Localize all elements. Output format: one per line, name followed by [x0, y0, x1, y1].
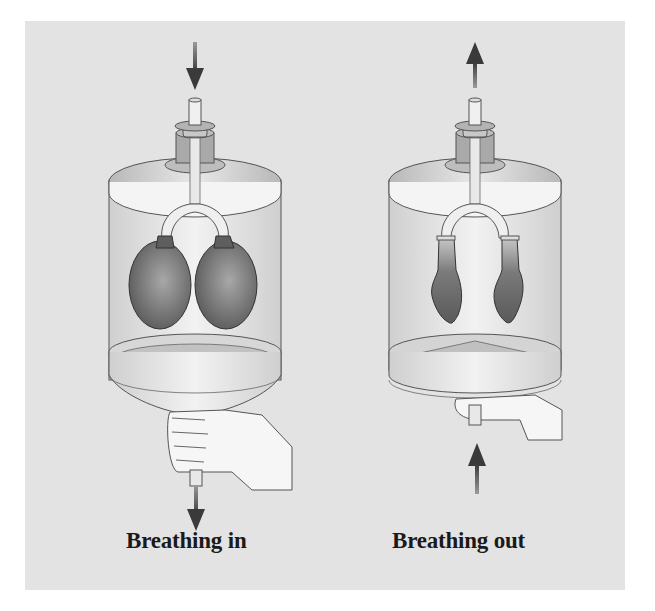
left-lung-balloon	[129, 241, 191, 329]
breathing-in-model	[109, 42, 292, 531]
hand-pulling-icon	[168, 410, 292, 490]
pull-down-arrow-icon	[187, 485, 205, 531]
breathing-in-label: Breathing in	[126, 528, 247, 554]
right-lung-balloon	[195, 241, 257, 329]
air-out-arrow-icon	[466, 42, 484, 88]
air-in-arrow-icon	[186, 42, 204, 90]
hand-pushing-icon	[455, 395, 562, 440]
breathing-out-model	[389, 42, 562, 494]
push-up-arrow-icon	[468, 443, 486, 494]
breathing-out-label: Breathing out	[392, 528, 525, 554]
bell-jar-lung-model-diagram	[0, 0, 655, 611]
